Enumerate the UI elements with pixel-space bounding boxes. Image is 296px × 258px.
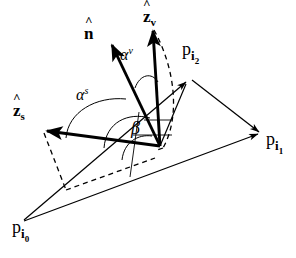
edge-p0-p1 <box>24 134 258 221</box>
p-letter-2: p <box>182 39 191 59</box>
z-hat-s-symbol: ^z <box>13 102 21 119</box>
p1-sub-index: 1 <box>279 146 284 156</box>
label-point-p-i0: pi0 <box>12 218 29 244</box>
label-n-hat: ^n <box>84 25 93 42</box>
beta-symbol: β <box>131 118 140 138</box>
figure-root: ^n ^zv ^zs αv αs β pi2 pi1 pi0 <box>0 0 296 258</box>
p-letter-1: p <box>266 129 275 149</box>
label-beta: β <box>131 119 140 137</box>
z-subscript-v: v <box>151 16 157 28</box>
label-z-hat-v: ^zv <box>143 8 156 28</box>
n-hat-symbol: ^n <box>84 25 93 42</box>
hat-accent-n-icon: ^ <box>84 14 93 27</box>
p2-sub-index: 2 <box>195 56 200 66</box>
triangle-edges <box>24 80 259 221</box>
label-z-hat-s: ^zs <box>13 102 25 122</box>
edge-p2-p1 <box>192 80 259 132</box>
alpha-s-superscript: s <box>84 85 88 96</box>
dashed-zs-drop <box>44 133 66 190</box>
z-subscript-s: s <box>21 110 25 122</box>
unit-vectors <box>47 31 160 146</box>
p0-sub-index: 0 <box>25 234 30 244</box>
vector-z-hat-v <box>153 31 160 146</box>
label-point-p-i2: pi2 <box>182 40 199 66</box>
label-alpha-view: αv <box>120 46 133 63</box>
geometry-diagram <box>0 0 296 258</box>
vector-z-hat-s <box>47 131 160 146</box>
label-point-p-i1: pi1 <box>266 130 283 156</box>
hat-accent-zv-icon: ^ <box>143 0 151 10</box>
label-alpha-source: αs <box>76 86 88 103</box>
arc-beta-lower <box>122 136 152 160</box>
p-letter-0: p <box>12 217 21 237</box>
z-hat-v-symbol: ^z <box>143 8 151 25</box>
hat-accent-zs-icon: ^ <box>13 91 21 104</box>
arc-alpha-s <box>66 99 126 138</box>
dashed-base-to-vertex <box>66 158 155 190</box>
alpha-v-superscript: v <box>128 45 132 56</box>
edge-p0-p2 <box>24 82 186 220</box>
dashed-zv-foot <box>157 148 163 150</box>
